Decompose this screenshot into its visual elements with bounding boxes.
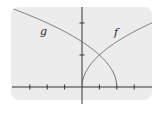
plot-area — [0, 0, 161, 114]
label-g: g — [40, 26, 47, 37]
label-f: f — [114, 27, 118, 38]
curve-g — [14, 9, 117, 87]
